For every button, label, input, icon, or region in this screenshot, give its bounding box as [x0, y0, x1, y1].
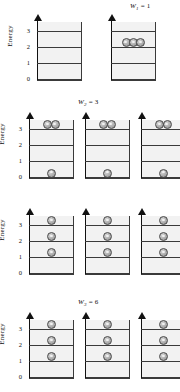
- energy-level-line: [141, 257, 180, 258]
- energy-level-panel: [134, 312, 180, 382]
- energy-axis: Energy0123: [0, 312, 22, 382]
- axis-arrow-shaft: [29, 212, 30, 274]
- energy-level-line: [111, 80, 156, 81]
- energy-level-line: [141, 329, 180, 330]
- energy-level-line: [85, 241, 130, 242]
- energy-level-line: [29, 378, 74, 379]
- axis-arrow-shaft: [29, 316, 30, 378]
- energy-level-line: [37, 80, 82, 81]
- multiplicity-label: W1 = 1: [130, 2, 150, 11]
- energy-level-line: [29, 361, 74, 362]
- energy-level-panel: [22, 312, 74, 382]
- microstate-row: W2 = 3Energy0123: [0, 112, 180, 182]
- axis-arrow-head-icon: [82, 112, 90, 119]
- multiplicity-value: = 3: [87, 98, 99, 106]
- energy-level-panel: [134, 208, 180, 278]
- axis-arrow-head-icon: [82, 208, 90, 215]
- axis-arrow-shaft: [141, 316, 142, 378]
- multiplicity-value: = 1: [139, 2, 151, 10]
- energy-level-panel: [78, 112, 130, 182]
- axis-arrow-shaft: [85, 116, 86, 178]
- energy-level-panel: [134, 112, 180, 182]
- energy-axis-title: Energy: [0, 116, 6, 152]
- energy-level-panel: [22, 208, 74, 278]
- energy-level-line: [29, 178, 74, 179]
- energy-level-line: [141, 225, 180, 226]
- energy-level-line: [141, 274, 180, 275]
- energy-level-line: [141, 361, 180, 362]
- particle: [51, 120, 60, 129]
- energy-axis: Energy0123: [0, 112, 22, 182]
- energy-level-line: [29, 241, 74, 242]
- energy-level-line: [85, 225, 130, 226]
- particle: [107, 120, 116, 129]
- energy-level-diagram: W1 = 1Energy0123W2 = 3Energy0123Energy01…: [0, 0, 180, 392]
- energy-level-panel: [78, 312, 130, 382]
- energy-axis: Energy0123: [4, 14, 30, 84]
- axis-arrow-head-icon: [26, 112, 34, 119]
- energy-level-line: [111, 47, 156, 48]
- particle: [103, 169, 112, 178]
- energy-level-line: [29, 129, 74, 130]
- energy-level-line: [85, 161, 130, 162]
- energy-level-line: [85, 329, 130, 330]
- axis-arrow-head-icon: [26, 312, 34, 319]
- energy-level-line: [85, 361, 130, 362]
- multiplicity-value: = 6: [87, 298, 99, 306]
- axis-arrow-head-icon: [82, 312, 90, 319]
- energy-axis-title: Energy: [0, 316, 6, 352]
- energy-level-line: [111, 63, 156, 64]
- energy-level-line: [141, 241, 180, 242]
- axis-arrow-head-icon: [26, 208, 34, 215]
- energy-level-line: [29, 145, 74, 146]
- axis-arrow-shaft: [111, 18, 112, 80]
- particle: [47, 169, 56, 178]
- energy-axis-title: Energy: [6, 18, 14, 54]
- energy-level-line: [37, 47, 82, 48]
- axis-arrow-head-icon: [34, 14, 42, 21]
- microstate-row: W1 = 1Energy0123: [0, 14, 180, 84]
- energy-level-line: [85, 129, 130, 130]
- multiplicity-label: W2 = 3: [78, 98, 98, 107]
- energy-level-line: [29, 345, 74, 346]
- energy-level-line: [37, 31, 82, 32]
- energy-axis: Energy0123: [0, 208, 22, 278]
- energy-level-line: [111, 31, 156, 32]
- axis-arrow-head-icon: [138, 312, 146, 319]
- axis-arrow-shaft: [141, 116, 142, 178]
- particle: [159, 169, 168, 178]
- energy-level-panel: [104, 14, 156, 84]
- energy-level-line: [141, 345, 180, 346]
- energy-level-line: [141, 178, 180, 179]
- energy-level-line: [85, 257, 130, 258]
- energy-level-line: [85, 378, 130, 379]
- energy-level-line: [85, 178, 130, 179]
- multiplicity-label: W3 = 6: [78, 298, 98, 307]
- axis-arrow-shaft: [37, 18, 38, 80]
- microstate-row: Energy0123: [0, 208, 180, 278]
- axis-arrow-shaft: [85, 316, 86, 378]
- energy-level-line: [141, 161, 180, 162]
- energy-level-line: [141, 378, 180, 379]
- energy-level-line: [141, 129, 180, 130]
- energy-axis-title: Energy: [0, 212, 6, 248]
- energy-level-line: [29, 257, 74, 258]
- axis-arrow-shaft: [29, 116, 30, 178]
- energy-level-panel: [22, 112, 74, 182]
- axis-arrow-head-icon: [138, 208, 146, 215]
- energy-level-line: [85, 345, 130, 346]
- axis-arrow-head-icon: [138, 112, 146, 119]
- energy-level-line: [85, 274, 130, 275]
- energy-level-line: [29, 274, 74, 275]
- axis-arrow-head-icon: [108, 14, 116, 21]
- energy-level-line: [37, 63, 82, 64]
- microstate-row: W3 = 6Energy0123: [0, 312, 180, 382]
- energy-level-panel: [78, 208, 130, 278]
- energy-level-line: [29, 161, 74, 162]
- particle: [163, 120, 172, 129]
- energy-level-panel: [30, 14, 82, 84]
- axis-arrow-shaft: [141, 212, 142, 274]
- energy-level-line: [29, 329, 74, 330]
- energy-level-line: [141, 145, 180, 146]
- axis-arrow-shaft: [85, 212, 86, 274]
